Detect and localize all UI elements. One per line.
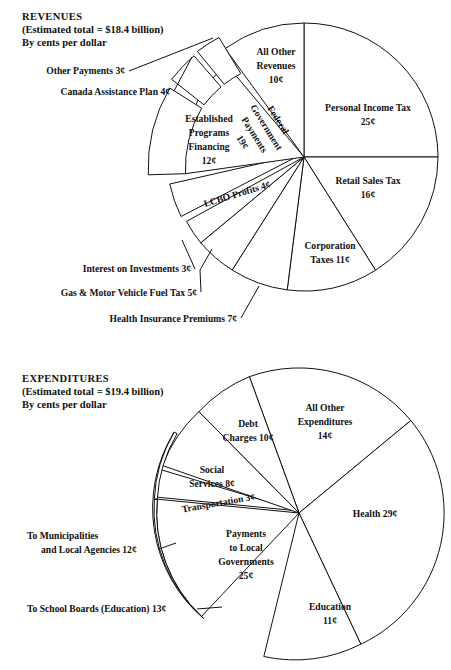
svg-text:Financing: Financing — [188, 141, 229, 152]
svg-text:to Local: to Local — [229, 542, 263, 553]
label-to-school-boards-education: To School Boards (Education) 13¢ — [27, 603, 167, 615]
svg-text:To Municipalities: To Municipalities — [27, 530, 99, 541]
expenditures-title: EXPENDITURES — [22, 373, 109, 384]
label-gas-fuel-tax: Gas & Motor Vehicle Fuel Tax 5¢ — [61, 287, 197, 298]
svg-text:Governments: Governments — [218, 556, 274, 567]
svg-text:Debt: Debt — [238, 418, 259, 429]
svg-text:16¢: 16¢ — [361, 189, 376, 200]
svg-text:25¢: 25¢ — [239, 570, 254, 581]
svg-text:Taxes 11¢: Taxes 11¢ — [310, 254, 350, 265]
leader-gas-fuel-tax — [200, 249, 212, 292]
svg-text:Programs: Programs — [189, 127, 230, 138]
svg-text:Established: Established — [185, 113, 233, 124]
expenditures-subtitle: (Estimated total = $19.4 billion) — [22, 386, 164, 398]
svg-text:14¢: 14¢ — [318, 430, 333, 441]
svg-text:All Other: All Other — [256, 46, 296, 57]
svg-text:12¢: 12¢ — [202, 155, 217, 166]
svg-text:All Other: All Other — [305, 402, 345, 413]
svg-text:Revenues: Revenues — [257, 60, 296, 71]
svg-text:Charges 10¢: Charges 10¢ — [223, 432, 274, 443]
svg-text:25¢: 25¢ — [361, 116, 376, 127]
svg-text:Retail Sales Tax: Retail Sales Tax — [335, 175, 400, 186]
label-other-payments: Other Payments 3¢ — [46, 65, 125, 76]
svg-text:Personal Income Tax: Personal Income Tax — [325, 102, 411, 113]
revenues-pie-svg: REVENUES (Estimated total = $18.4 billio… — [0, 0, 451, 345]
expenditures-units-note: By cents per dollar — [22, 399, 107, 410]
label-health: Health 29¢ — [353, 508, 398, 519]
expenditures-wedges — [156, 368, 445, 660]
leader-health-insurance-premiums — [241, 286, 259, 318]
revenues-chart-panel: REVENUES (Estimated total = $18.4 billio… — [0, 0, 451, 345]
revenues-title: REVENUES — [22, 11, 82, 22]
svg-text:Expenditures: Expenditures — [298, 416, 353, 427]
label-health-insurance-premiums: Health Insurance Premiums 7¢ — [110, 313, 238, 324]
revenues-subtitle: (Estimated total = $18.4 billion) — [22, 24, 164, 36]
svg-text:Education: Education — [309, 601, 352, 612]
revenues-units-note: By cents per dollar — [22, 37, 107, 48]
svg-text:Services 8¢: Services 8¢ — [189, 478, 235, 489]
expenditures-pie-svg: EXPENDITURES (Estimated total = $19.4 bi… — [0, 345, 451, 670]
svg-text:Payments: Payments — [226, 528, 266, 539]
svg-text:Social: Social — [200, 464, 225, 475]
label-canada-assistance-plan: Canada Assistance Plan 4¢ — [60, 86, 170, 97]
label-interest-on-investments: Interest on Investments 3¢ — [83, 263, 191, 274]
svg-text:Corporation: Corporation — [304, 240, 356, 251]
expenditures-chart-panel: EXPENDITURES (Estimated total = $19.4 bi… — [0, 345, 451, 670]
svg-text:and Local Agencies 12¢: and Local Agencies 12¢ — [41, 544, 137, 555]
svg-text:10¢: 10¢ — [269, 74, 284, 85]
svg-text:11¢: 11¢ — [323, 615, 337, 626]
wedge-personal-income-tax[interactable] — [304, 23, 438, 157]
label-to-municipalities-and-local-agencies: To Municipalities and Local Agencies 12¢ — [27, 530, 137, 555]
